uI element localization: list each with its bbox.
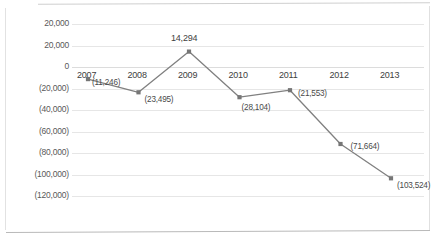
data-point-label: (28,104) bbox=[242, 103, 271, 112]
data-point-marker bbox=[86, 77, 90, 81]
data-point-marker bbox=[187, 50, 191, 54]
data-point-label: (11,246) bbox=[92, 78, 120, 87]
data-point-label: (71,664) bbox=[351, 142, 380, 151]
data-point-label: (23,495) bbox=[145, 95, 174, 104]
data-point-marker bbox=[288, 88, 292, 92]
data-point-marker bbox=[338, 142, 342, 146]
data-point-marker bbox=[389, 176, 393, 180]
data-point-label: (21,553) bbox=[298, 89, 327, 98]
series-markers bbox=[86, 50, 393, 181]
data-point-marker bbox=[237, 95, 241, 99]
data-point-label: (103,524) bbox=[397, 181, 430, 190]
data-point-label: 14,294 bbox=[171, 33, 197, 43]
data-series bbox=[0, 0, 433, 239]
line-chart: 20,00020,0000(20,000)(40,000)(60,000)(80… bbox=[0, 0, 433, 239]
series-line bbox=[88, 52, 391, 179]
data-point-marker bbox=[136, 90, 140, 94]
plot-area: 20,00020,0000(20,000)(40,000)(60,000)(80… bbox=[0, 0, 433, 239]
